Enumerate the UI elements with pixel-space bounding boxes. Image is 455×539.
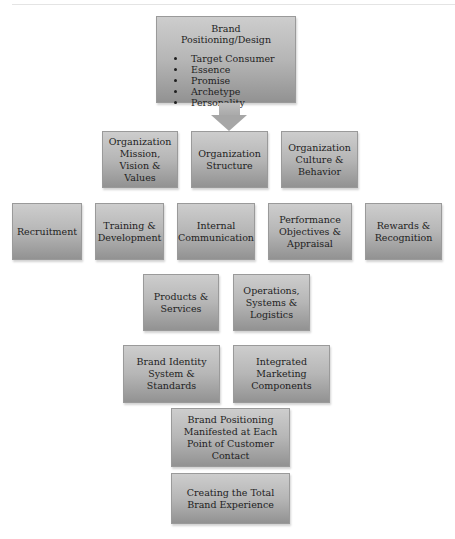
box-label: Products & Services — [148, 291, 214, 315]
bullet-target-consumer: Target Consumer — [187, 53, 287, 64]
top-box-bullet-list: Target Consumer Essence Promise Archetyp… — [165, 53, 287, 108]
box-label: Performance Objectives & Appraisal — [273, 214, 347, 250]
box-label: Organization Mission, Vision & Values — [107, 136, 173, 184]
box-label: Training & Development — [98, 220, 162, 244]
brand-positioning-design-box: Brand Positioning/Design Target Consumer… — [156, 16, 296, 103]
brand-positioning-manifested-box: Brand Positioning Manifested at Each Poi… — [171, 408, 290, 467]
box-label: Organization Structure — [196, 148, 263, 172]
box-label: Brand Positioning Manifested at Each Poi… — [176, 414, 285, 462]
box-label: Organization Culture & Behavior — [286, 142, 353, 178]
recruitment-box: Recruitment — [12, 203, 82, 260]
top-divider-line — [12, 4, 455, 5]
org-culture-behavior-box: Organization Culture & Behavior — [281, 131, 358, 188]
box-label: Operations, Systems & Logistics — [238, 285, 305, 321]
bullet-promise: Promise — [187, 75, 287, 86]
internal-communication-box: Internal Communication — [177, 203, 255, 260]
box-label: Creating the Total Brand Experience — [176, 487, 285, 511]
brand-identity-system-box: Brand Identity System & Standards — [123, 345, 220, 403]
box-label: Brand Identity System & Standards — [128, 356, 215, 392]
bullet-essence: Essence — [187, 64, 287, 75]
integrated-marketing-components-box: Integrated Marketing Components — [233, 345, 330, 403]
org-structure-box: Organization Structure — [191, 131, 268, 188]
total-brand-experience-box: Creating the Total Brand Experience — [171, 473, 290, 524]
box-label: Recruitment — [17, 226, 77, 238]
performance-objectives-appraisal-box: Performance Objectives & Appraisal — [268, 203, 352, 260]
top-box-title: Brand Positioning/Design — [165, 23, 287, 45]
down-arrow-icon — [211, 115, 247, 131]
box-label: Internal Communication — [178, 220, 254, 244]
box-label: Rewards & Recognition — [370, 220, 437, 244]
bullet-archetype: Archetype — [187, 86, 287, 97]
operations-systems-logistics-box: Operations, Systems & Logistics — [233, 274, 310, 331]
org-mission-vision-values-box: Organization Mission, Vision & Values — [102, 131, 178, 188]
products-services-box: Products & Services — [143, 274, 219, 331]
box-label: Integrated Marketing Components — [238, 356, 325, 392]
training-development-box: Training & Development — [95, 203, 164, 260]
rewards-recognition-box: Rewards & Recognition — [365, 203, 442, 260]
